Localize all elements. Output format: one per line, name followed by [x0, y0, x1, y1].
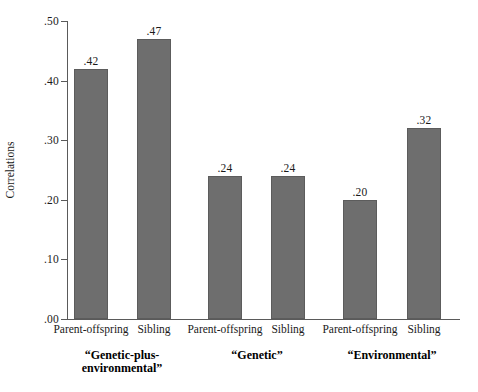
- y-tick-mark-1: [61, 81, 67, 82]
- y-tick-mark-4: [61, 259, 67, 260]
- x-category-label-2: Parent-offspring: [187, 323, 262, 335]
- bar-value-label-4: .20: [353, 186, 368, 198]
- x-category-label-1: Sibling: [137, 323, 170, 335]
- bar-0: .42: [74, 69, 108, 319]
- y-tick-mark-3: [61, 200, 67, 201]
- group-label-genetic-plus-environmental: “Genetic-plus- environmental”: [82, 349, 162, 376]
- y-tick-mark-5: [61, 319, 67, 320]
- y-tick-mark-0: [61, 21, 67, 22]
- y-tick-label-2: .30: [44, 134, 59, 146]
- group-label-genetic: “Genetic”: [231, 349, 282, 362]
- y-tick-label-3: .20: [44, 194, 59, 206]
- y-tick-mark-2: [61, 140, 67, 141]
- y-tick-label-1: .40: [44, 75, 59, 87]
- x-category-label-4: Parent-offspring: [322, 323, 397, 335]
- bar-value-label-1: .47: [147, 25, 162, 37]
- bar-2: .24: [208, 176, 242, 319]
- y-tick-label-0: .50: [44, 15, 59, 27]
- bar-1: .47: [137, 39, 171, 319]
- bar-value-label-5: .32: [417, 114, 432, 126]
- x-category-label-5: Sibling: [407, 323, 440, 335]
- y-tick-label-4: .10: [44, 253, 59, 265]
- bar-value-label-3: .24: [281, 162, 296, 174]
- bar-5: .32: [407, 128, 441, 319]
- bar-value-label-2: .24: [218, 162, 233, 174]
- bar-4: .20: [343, 200, 377, 319]
- plot-area: .50 .40 .30 .20 .10 .00 .42: [67, 21, 460, 319]
- y-axis-title: Correlations: [4, 142, 16, 199]
- bar-value-label-0: .42: [84, 55, 99, 67]
- x-category-label-0: Parent-offspring: [53, 323, 128, 335]
- group-label-environmental: “Environmental”: [347, 349, 436, 362]
- bar-chart-figure: Correlations .50 .40 .30 .20 .10: [0, 0, 478, 392]
- x-axis-line: [67, 319, 460, 320]
- bar-3: .24: [271, 176, 305, 319]
- x-category-label-3: Sibling: [271, 323, 304, 335]
